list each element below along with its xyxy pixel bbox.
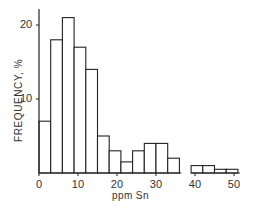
- x-tick-label: 30: [150, 178, 162, 190]
- x-tick-label: 10: [72, 178, 84, 190]
- histogram-bar: [168, 158, 180, 173]
- x-tick-label: 0: [36, 178, 42, 190]
- histogram-bar: [121, 162, 133, 173]
- histogram-bar: [86, 69, 98, 173]
- y-tick-label: 10: [20, 92, 32, 104]
- histogram-bar: [109, 151, 121, 173]
- x-tick-label: 40: [189, 178, 201, 190]
- histogram-bar: [39, 121, 51, 173]
- histogram-bar: [74, 47, 86, 173]
- y-tick-label: 20: [20, 18, 32, 30]
- x-tick-label: 50: [228, 178, 240, 190]
- x-tick-label: 20: [111, 178, 123, 190]
- histogram-bar: [51, 40, 63, 173]
- histogram-bar: [203, 166, 215, 173]
- histogram-bar: [156, 143, 168, 173]
- x-axis-label: ppm Sn: [112, 190, 149, 201]
- histogram-bars: [39, 18, 238, 173]
- histogram-bar: [133, 151, 145, 173]
- histogram-bar: [62, 18, 74, 173]
- histogram-bar: [98, 136, 110, 173]
- histogram-bar: [191, 166, 203, 173]
- histogram-bar: [144, 143, 156, 173]
